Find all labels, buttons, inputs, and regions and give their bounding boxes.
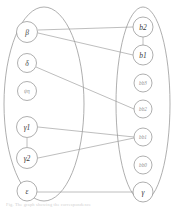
node-gamma2[interactable]: γ2 (17, 148, 38, 169)
bipartite-graph: βδψηγ1γ2εb2b1bb3bb2bb1bb0γ Fig. The grap… (0, 0, 175, 211)
edge-beta-b2 (38, 27, 133, 30)
node-bb3[interactable]: bb3 (134, 74, 152, 92)
node-label-gamma1: γ1 (24, 123, 31, 132)
figure-caption: Fig. The graph showing the correspondenc… (6, 202, 91, 207)
node-label-gamma2: γ2 (24, 154, 31, 163)
node-bb1[interactable]: bb1 (134, 128, 152, 146)
edge-beta-b1 (38, 33, 133, 55)
node-gamma[interactable]: γ (133, 182, 153, 202)
node-label-psieta: ψη (24, 88, 30, 94)
node-label-b1: b1 (139, 51, 147, 60)
node-label-bb0: bb0 (139, 162, 147, 168)
edge-gamma1-bb1 (38, 127, 134, 137)
node-bb2[interactable]: bb2 (134, 100, 152, 118)
node-label-bb2: bb2 (139, 106, 147, 112)
node-psieta[interactable]: ψη (18, 82, 37, 101)
node-bb0[interactable]: bb0 (134, 156, 152, 174)
node-label-delta: δ (25, 59, 29, 68)
node-b1[interactable]: b1 (133, 45, 153, 65)
node-delta[interactable]: δ (18, 54, 37, 73)
node-b2[interactable]: b2 (133, 17, 153, 37)
edges (27, 27, 143, 192)
caption-label: Fig. The graph showing the correspondenc… (6, 202, 91, 207)
node-label-bb1: bb1 (139, 134, 147, 140)
left-ellipse (4, 7, 84, 201)
diagram-canvas: βδψηγ1γ2εb2b1bb3bb2bb1bb0γ Fig. The grap… (0, 0, 175, 211)
node-beta[interactable]: β (17, 22, 38, 43)
node-label-beta: β (24, 28, 29, 37)
node-label-bb3: bb3 (139, 80, 147, 86)
node-label-epsilon: ε (26, 187, 29, 196)
node-label-b2: b2 (139, 23, 147, 32)
node-epsilon[interactable]: ε (17, 181, 37, 201)
edge-delta-bb2 (36, 67, 134, 109)
node-gamma1[interactable]: γ1 (17, 117, 38, 138)
nodes: βδψηγ1γ2εb2b1bb3bb2bb1bb0γ (17, 17, 154, 202)
